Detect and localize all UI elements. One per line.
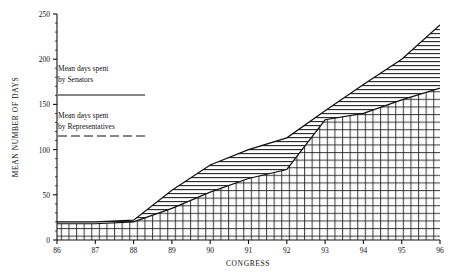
x-tick-label: 90: [206, 246, 214, 255]
x-tick-label: 96: [436, 246, 444, 255]
x-tick-label: 92: [283, 246, 291, 255]
plot-area: [57, 25, 440, 240]
x-tick-label: 86: [53, 246, 61, 255]
legend: Mean days spent by Senators Mean days sp…: [58, 64, 145, 136]
x-axis-title: CONGRESS: [226, 259, 270, 268]
y-axis-tick-labels: 050100150200250: [39, 10, 51, 245]
y-axis-title: MEAN NUMBER OF DAYS: [11, 77, 20, 178]
y-axis: 050100150200250 MEAN NUMBER OF DAYS: [11, 10, 57, 245]
x-axis-tick-labels: 8687888990919293949596: [53, 246, 444, 255]
y-tick-label: 250: [39, 10, 51, 19]
x-tick-label: 94: [360, 246, 368, 255]
legend-senators-line2: by Senators: [58, 75, 93, 84]
x-axis: 8687888990919293949596 CONGRESS: [53, 240, 444, 268]
y-tick-label: 100: [39, 146, 51, 155]
y-tick-label: 200: [39, 55, 51, 64]
x-tick-label: 91: [245, 246, 253, 255]
chart-container: 050100150200250 MEAN NUMBER OF DAYS 8687…: [0, 0, 455, 272]
y-tick-label: 50: [43, 191, 51, 200]
x-axis-ticks: [57, 240, 440, 244]
x-tick-label: 93: [321, 246, 329, 255]
y-axis-ticks: [53, 14, 57, 240]
y-tick-label: 150: [39, 100, 51, 109]
y-tick-label: 0: [46, 236, 50, 245]
area-chart: 050100150200250 MEAN NUMBER OF DAYS 8687…: [0, 0, 455, 272]
x-tick-label: 95: [398, 246, 406, 255]
legend-representatives-line2: by Representatives: [58, 122, 115, 131]
legend-senators-line1: Mean days spent: [58, 64, 109, 73]
legend-representatives-line1: Mean days spent: [58, 111, 109, 120]
x-tick-label: 88: [130, 246, 138, 255]
x-tick-label: 87: [92, 246, 100, 255]
x-tick-label: 89: [168, 246, 176, 255]
